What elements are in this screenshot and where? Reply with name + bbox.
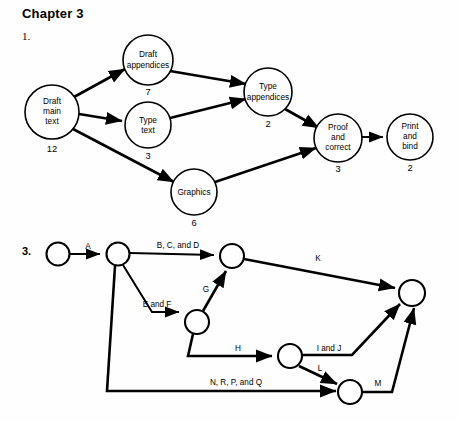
edge-b-c-and-d bbox=[130, 253, 214, 255]
node-circle-n3[interactable] bbox=[220, 244, 244, 268]
diagram3-edges bbox=[70, 253, 414, 392]
edge-label-k: K bbox=[315, 254, 321, 263]
edge-k bbox=[244, 259, 395, 288]
node-circle-n1[interactable] bbox=[47, 243, 70, 266]
edge-label-l: L bbox=[318, 364, 323, 373]
edge-n-r-p-and-q bbox=[107, 266, 336, 391]
edge-label-b-c-and-d: B, C, and D bbox=[157, 241, 199, 250]
edge-label-g: G bbox=[203, 285, 209, 294]
node-circle-n6[interactable] bbox=[338, 380, 362, 404]
edge-m bbox=[363, 308, 414, 392]
node-circle-n2[interactable] bbox=[107, 243, 130, 266]
node-circle-n5[interactable] bbox=[278, 344, 302, 368]
node-circle-n7[interactable] bbox=[399, 280, 425, 306]
edge-label-m: M bbox=[375, 379, 382, 388]
page-canvas: Chapter 3 1. 3. Draft main bbox=[0, 0, 460, 421]
edge-label-a: A bbox=[85, 242, 91, 251]
edge-label-i-and-j: I and J bbox=[317, 344, 342, 353]
edge-label-n-r-p-and-q: N, R, P, and Q bbox=[210, 378, 262, 387]
edge-label-e-and-f: E and F bbox=[143, 300, 172, 309]
node-circle-n4[interactable] bbox=[185, 310, 209, 334]
network-diagram-3: A B, C, and D E and F G K H I and J L N,… bbox=[0, 0, 460, 421]
edge-label-h: H bbox=[235, 344, 241, 353]
edge-h bbox=[188, 334, 272, 356]
